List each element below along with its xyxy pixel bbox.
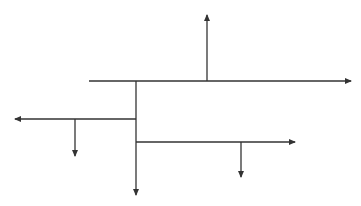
arrow-diagram xyxy=(0,0,361,206)
diagram-segments xyxy=(15,15,351,195)
